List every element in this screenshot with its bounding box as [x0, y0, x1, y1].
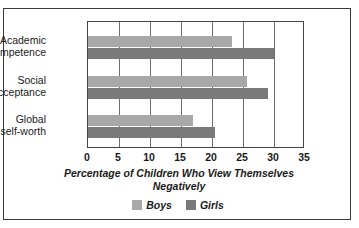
legend: Boys Girls — [4, 199, 352, 211]
category-label-global-self-worth: Global self-worth — [0, 114, 46, 137]
bar-girls-1 — [88, 88, 268, 99]
category-label-social-acceptance: Social acceptance — [0, 75, 46, 98]
bar-boys-1 — [88, 76, 247, 87]
x-tick-label-20: 20 — [199, 151, 223, 163]
chart-figure: Academic competence Social acceptance Gl… — [3, 8, 351, 220]
category-label-line: self-worth — [0, 126, 46, 138]
bar-boys-0 — [88, 36, 232, 47]
x-tick-label-15: 15 — [168, 151, 192, 163]
x-tick-label-0: 0 — [75, 151, 99, 163]
category-label-line: acceptance — [0, 87, 46, 99]
category-label-line: Academic — [0, 35, 46, 47]
x-axis-title-line: Negatively — [44, 180, 314, 193]
x-tick-label-25: 25 — [230, 151, 254, 163]
x-axis-title: Percentage of Children Who View Themselv… — [44, 167, 314, 193]
bar-girls-2 — [88, 127, 215, 138]
legend-swatch-girls-icon — [186, 200, 196, 210]
legend-item-girls: Girls — [186, 199, 224, 211]
x-tick-label-10: 10 — [137, 151, 161, 163]
plot-area — [87, 21, 304, 148]
legend-label-girls: Girls — [200, 199, 224, 211]
category-label-line: Global — [0, 114, 46, 126]
legend-swatch-boys-icon — [132, 200, 142, 210]
x-axis-title-line: Percentage of Children Who View Themselv… — [44, 167, 314, 180]
category-label-line: competence — [0, 47, 46, 59]
legend-label-boys: Boys — [146, 199, 172, 211]
category-label-academic-competence: Academic competence — [0, 35, 46, 58]
legend-item-boys: Boys — [132, 199, 172, 211]
bar-girls-0 — [88, 48, 274, 59]
category-label-line: Social — [0, 75, 46, 87]
x-tick-label-30: 30 — [261, 151, 285, 163]
x-tick-label-35: 35 — [292, 151, 316, 163]
bar-boys-2 — [88, 115, 193, 126]
gridline — [274, 22, 275, 147]
x-tick-label-5: 5 — [106, 151, 130, 163]
